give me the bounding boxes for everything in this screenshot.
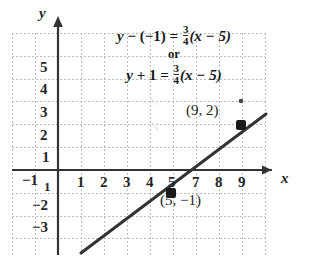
eq1-rhs: (x − 5) [189,28,231,44]
eq1-frac-numerator: 3 [183,24,189,35]
y-tick-3: 3 [40,105,48,120]
eq1-equals: = [170,28,179,44]
x-tick-5: 5 [168,175,176,190]
eq1-minus: − [127,28,136,44]
point-label-9-2: (9, 2) [186,103,219,118]
y-axis-arrowhead [53,16,63,27]
equation-line-1: y − (−1) = 34(x − 5) [74,24,274,47]
equation-connector: or [74,47,274,63]
x-tick-9: 9 [238,175,246,190]
eq2-frac-numerator: 3 [174,63,180,74]
y-tick-5: 5 [40,60,48,75]
x-axis-label: x [281,171,289,186]
eq1-y: y [117,28,124,44]
eq2-plus: + [137,67,146,83]
x-axis-arrowhead [262,166,272,175]
x-tick-8: 8 [215,175,223,190]
eq2-equals: = [160,67,169,83]
x-tick-3: 3 [123,175,131,190]
y-axis-label: y [39,6,46,21]
eq1-fraction: 34 [183,24,189,47]
equation-line-2: y + 1 = 34(x − 5) [74,63,274,86]
y-tick-neg-1: 1 [44,180,51,193]
y-tick-2: 2 [40,128,48,143]
x-tick-4: 4 [146,175,154,190]
eq2-rhs: (x − 5) [180,67,222,83]
equation-block: y − (−1) = 34(x − 5) or y + 1 = 34(x − 5… [74,24,274,87]
eq2-frac-denominator: 4 [174,74,180,86]
y-tick-neg-2: −2 [32,198,48,213]
x-tick-neg-1: −1 [22,173,38,188]
x-tick-7: 7 [192,175,200,190]
graph-figure: y − (−1) = 34(x − 5) or y + 1 = 34(x − 5… [0,0,312,261]
x-tick-1: 1 [77,175,85,190]
eq2-y: y [126,67,133,83]
y-tick-4: 4 [40,82,48,97]
x-tick-2: 2 [100,175,108,190]
point-marker-9-2 [236,120,246,130]
stray-ink-dot [239,99,244,104]
eq1-frac-denominator: 4 [183,35,189,47]
y-tick-neg-3: −3 [32,220,48,235]
eq2-one: 1 [149,67,157,83]
y-tick-1: 1 [42,150,50,165]
eq1-paren-neg-one: (−1) [140,28,166,44]
point-label-5-neg1: (5, −1) [160,193,201,208]
eq2-fraction: 34 [174,63,180,86]
